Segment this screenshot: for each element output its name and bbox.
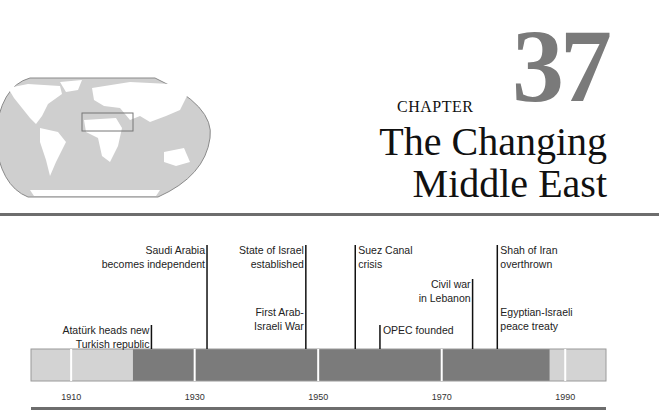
event-label: First Arab- [255, 306, 304, 318]
chapter-title-line-2: Middle East [413, 164, 607, 204]
tick-label: 1910 [61, 392, 81, 400]
event-label: in Lebanon [419, 292, 471, 304]
event-label: Israeli War [254, 320, 304, 332]
timeline-period-light [550, 349, 606, 381]
timeline: 19101930195019701990Atatürk heads newTur… [0, 240, 659, 400]
chapter-number: 37 [512, 14, 608, 118]
event-label: crisis [358, 258, 382, 270]
event-label: Atatürk heads new [62, 324, 149, 336]
tick-label: 1930 [185, 392, 205, 400]
timeline-period-light [31, 349, 133, 381]
event-label: overthrown [500, 258, 552, 270]
event-label: State of Israel [239, 244, 304, 256]
top-divider [0, 213, 659, 216]
event-label: OPEC founded [383, 324, 454, 336]
event-label: Turkish republic [76, 338, 150, 350]
event-label: becomes independent [102, 258, 205, 270]
bottom-divider [31, 407, 606, 410]
event-label: Saudi Arabia [145, 244, 205, 256]
event-label: peace treaty [500, 320, 559, 332]
event-label: Civil war [431, 278, 471, 290]
world-locator-map [0, 76, 215, 200]
tick-label: 1990 [555, 392, 575, 400]
chapter-title-line-1: The Changing [379, 122, 607, 162]
event-label: established [251, 258, 304, 270]
event-label: Shah of Iran [500, 244, 557, 256]
tick-label: 1950 [308, 392, 328, 400]
chapter-label: CHAPTER [397, 98, 473, 116]
event-label: Suez Canal [358, 244, 412, 256]
antarctica-shape [30, 190, 160, 196]
tick-label: 1970 [432, 392, 452, 400]
event-label: Egyptian-Israeli [500, 306, 572, 318]
